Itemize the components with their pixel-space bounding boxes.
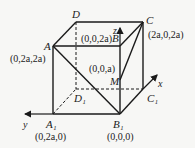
label-B1: B₁: [113, 118, 124, 130]
coord-C: (2a,0,2a): [148, 29, 184, 41]
edge-C-M: [120, 22, 143, 80]
label-A1: A₁: [45, 118, 57, 130]
x-axis: [143, 75, 157, 89]
label-y: y: [22, 119, 28, 130]
edge-B-C: [120, 22, 143, 46]
coord-A: (0,2a,2a): [10, 53, 46, 65]
edge-B1-C1: [120, 89, 143, 114]
label-C: C: [146, 14, 154, 26]
label-D: D: [71, 8, 80, 20]
coord-A1: (0,2a,0): [35, 131, 66, 143]
label-C1: C₁: [147, 92, 158, 104]
edge-A1-D1: [53, 89, 76, 114]
coord-B: (0,0,2a): [81, 33, 112, 45]
cube-diagram: D C (2a,0,2a) A (0,2a,2a) (0,0,2a) B z (…: [0, 0, 195, 148]
edge-A-D: [53, 22, 76, 46]
label-M: M: [109, 75, 120, 87]
label-z: z: [112, 25, 117, 36]
diagram-svg: D C (2a,0,2a) A (0,2a,2a) (0,0,2a) B z (…: [0, 0, 195, 148]
label-A: A: [43, 40, 51, 52]
label-x: x: [157, 78, 163, 89]
label-D1: D₁: [73, 92, 86, 104]
coord-B1: (0,0,0): [107, 131, 134, 143]
coord-M: (0,0,a): [89, 63, 115, 75]
